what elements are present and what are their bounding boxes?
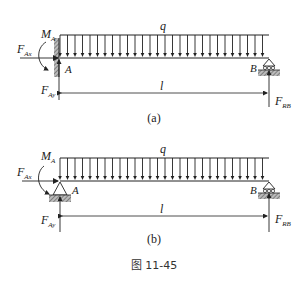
fay-label-b: FAy (40, 213, 56, 229)
load-arrowhead-icon (156, 176, 160, 180)
load-arrowhead-icon (163, 53, 167, 57)
subfigure-label-b: (b) (147, 232, 161, 246)
load-arrowhead-icon (238, 53, 242, 57)
load-arrowhead-icon (103, 53, 107, 57)
load-arrowhead-icon (88, 176, 92, 180)
point-b-label-b: B (250, 184, 257, 196)
fixed-wall-support-a (54, 38, 59, 77)
load-arrowhead-icon (118, 176, 122, 180)
load-arrowhead-icon (88, 53, 92, 57)
load-label-q-a: q (160, 19, 166, 33)
load-arrowhead-icon (156, 53, 160, 57)
load-arrowhead-icon (81, 53, 85, 57)
fay-label-a: FAy (40, 83, 56, 99)
load-arrowhead-icon (261, 53, 265, 57)
load-arrowhead-icon (208, 53, 212, 57)
load-arrowhead-icon (201, 176, 205, 180)
load-arrowhead-icon (246, 53, 250, 57)
load-arrowhead-icon (171, 53, 175, 57)
load-arrowhead-icon (178, 53, 182, 57)
load-arrowhead-icon (126, 53, 130, 57)
load-arrowhead-icon (186, 176, 190, 180)
load-arrowhead-icon (148, 176, 152, 180)
length-label-b: l (160, 202, 164, 216)
load-arrowhead-icon (111, 53, 115, 57)
load-arrowhead-icon (216, 176, 220, 180)
load-arrowhead-icon (81, 176, 85, 180)
load-arrowhead-icon (186, 53, 190, 57)
load-arrowhead-icon (148, 53, 152, 57)
load-arrowhead-icon (66, 53, 70, 57)
load-arrowhead-icon (231, 176, 235, 180)
load-arrowhead-icon (96, 176, 100, 180)
load-arrowhead-icon (141, 176, 145, 180)
fax-label-b: FAx (16, 165, 33, 181)
load-arrowhead-icon (73, 53, 77, 57)
load-arrowhead-icon (111, 176, 115, 180)
moment-ma-arrow-a (39, 42, 48, 70)
load-arrowhead-icon (126, 176, 130, 180)
load-label-q-b: q (160, 142, 166, 156)
distributed-load-a (58, 35, 269, 57)
load-arrowhead-icon (261, 176, 265, 180)
figure-caption: 图 11-45 (131, 259, 177, 272)
load-arrowhead-icon (58, 176, 62, 180)
load-arrowhead-icon (96, 53, 100, 57)
load-arrowhead-icon (246, 176, 250, 180)
load-arrowhead-icon (193, 176, 197, 180)
load-arrowhead-icon (253, 176, 257, 180)
subfigure-label-a: (a) (147, 111, 160, 125)
diagram-a: q MA FAx A FAy B FRB l (a) (16, 19, 292, 125)
load-arrowhead-icon (223, 176, 227, 180)
point-a-label-a: A (64, 63, 72, 75)
fax-label-a: FAx (16, 42, 33, 58)
frb-label-a: FRB (274, 94, 292, 110)
load-arrowhead-icon (253, 53, 257, 57)
point-b-label-a: B (250, 62, 257, 74)
load-arrowhead-icon (118, 53, 122, 57)
load-arrowhead-icon (208, 176, 212, 180)
length-label-a: l (160, 79, 164, 93)
moment-ma-arrow-b (39, 166, 49, 194)
load-arrowhead-icon (141, 53, 145, 57)
load-arrowhead-icon (66, 176, 70, 180)
distributed-load-b (58, 158, 269, 180)
load-arrowhead-icon (73, 176, 77, 180)
load-arrowhead-icon (216, 53, 220, 57)
moment-label-b: MA (40, 149, 56, 165)
load-arrowhead-icon (178, 176, 182, 180)
load-arrowhead-icon (201, 53, 205, 57)
diagram-b: q MA FAx A FAy B FRB l (b) (16, 142, 292, 246)
load-arrowhead-icon (163, 176, 167, 180)
load-arrowhead-icon (103, 176, 107, 180)
load-arrowhead-icon (133, 53, 137, 57)
load-arrowhead-icon (231, 53, 235, 57)
moment-label-a: MA (40, 27, 56, 43)
load-arrowhead-icon (238, 176, 242, 180)
frb-label-b: FRB (274, 212, 292, 228)
point-a-label-b: A (71, 184, 79, 196)
load-arrowhead-icon (193, 53, 197, 57)
load-arrowhead-icon (171, 176, 175, 180)
figure-canvas: q MA FAx A FAy B FRB l (a) (0, 0, 308, 285)
load-arrowhead-icon (133, 176, 137, 180)
load-arrowhead-icon (223, 53, 227, 57)
